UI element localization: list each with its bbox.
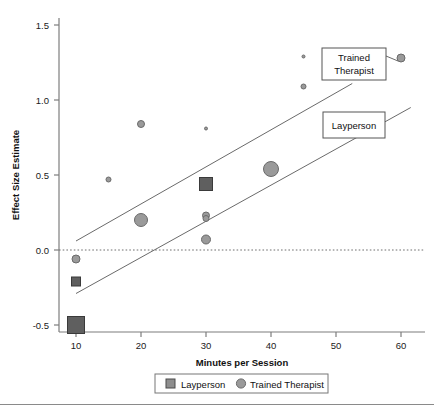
y-axis-ticks [54,25,59,325]
legend-marker-layperson [166,379,175,388]
y-tick-label-1.0: 1.0 [36,95,49,106]
x-tick-label-20: 20 [136,340,147,351]
data-point-layperson [72,277,81,286]
trained-therapist-leader-line [386,56,398,61]
data-point-trained-therapist [302,55,305,58]
x-tick-label-60: 60 [396,340,407,351]
chart-figure: 1.5 1.0 0.5 0.0 -0.5 10 20 30 40 50 60 [0,0,434,414]
x-axis-ticks [76,332,401,337]
y-tick-label-0.5: 0.5 [36,170,49,181]
x-tick-label-50: 50 [331,340,342,351]
data-point-trained-therapist [264,162,279,177]
data-point-trained-therapist [205,127,208,130]
x-tick-label-30: 30 [201,340,212,351]
y-axis-title: Effect Size Estimate [10,130,21,220]
layperson-callout: Layperson [323,112,385,138]
trained-therapist-callout-line1: Trained [338,52,370,63]
data-markers-group [68,54,406,334]
legend-marker-trained-therapist [236,379,245,388]
data-point-trained-therapist [138,121,145,128]
figure-bottom-rule [0,404,434,405]
trend-line-trained-therapist [76,84,352,242]
legend-label-trained-therapist: Trained Therapist [250,379,324,390]
data-point-trained-therapist [202,235,211,244]
y-tick-label--0.5: -0.5 [33,320,49,331]
data-point-trained-therapist [72,255,80,263]
y-tick-label-1.5: 1.5 [36,20,49,31]
trained-therapist-callout: Trained Therapist [322,48,386,80]
data-point-trained-therapist [135,214,148,227]
data-point-trained-therapist [106,177,111,182]
data-point-trained-therapist [203,216,209,222]
layperson-callout-line1: Layperson [332,120,376,131]
x-axis-title: Minutes per Session [196,357,289,368]
callout-leaders [386,56,398,61]
data-point-layperson [200,178,213,191]
data-point-trained-therapist [397,54,405,62]
x-tick-label-40: 40 [266,340,277,351]
chart-legend: Layperson Trained Therapist [155,374,328,393]
trained-therapist-callout-line2: Therapist [334,65,374,76]
x-tick-label-10: 10 [71,340,82,351]
legend-label-layperson: Layperson [181,379,225,390]
scatter-plot-svg: 1.5 1.0 0.5 0.0 -0.5 10 20 30 40 50 60 [0,0,434,414]
y-tick-label-0.0: 0.0 [36,245,49,256]
data-point-trained-therapist [301,84,306,89]
data-point-layperson [68,317,85,334]
